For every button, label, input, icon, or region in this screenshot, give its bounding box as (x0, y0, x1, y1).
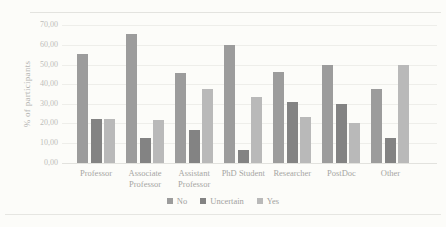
bottom-border-line (5, 214, 441, 215)
y-tick-label-20: 20,00 (22, 119, 58, 127)
legend-item-no: No (167, 196, 187, 206)
participants-bar-chart: % of participants 0,0010,0020,0030,0040,… (0, 0, 446, 227)
bar-uncertain-other (385, 138, 396, 163)
scanned-document-figure: % of participants 0,0010,0020,0030,0040,… (0, 0, 446, 227)
bar-yes-associate-professor (153, 120, 164, 163)
gridline-0 (62, 163, 437, 164)
bar-yes-professor (104, 119, 115, 163)
bar-yes-postdoc (349, 123, 360, 162)
bar-no-associate-professor (126, 34, 137, 163)
y-tick-label-0: 0,00 (22, 159, 58, 167)
bar-uncertain-phd-student (238, 150, 249, 163)
x-label-assistant-professor: Assistant Professor (166, 168, 222, 189)
y-tick-label-50: 50,00 (22, 61, 58, 69)
y-tick-label-10: 10,00 (22, 139, 58, 147)
bar-uncertain-researcher (287, 102, 298, 162)
legend-label-uncertain: Uncertain (210, 196, 244, 206)
y-tick-label-60: 60,00 (22, 41, 58, 49)
bar-uncertain-assistant-professor (189, 130, 200, 163)
bar-yes-researcher (300, 117, 311, 162)
gridline-40 (62, 84, 437, 85)
x-label-postdoc: PostDoc (313, 168, 369, 179)
x-label-associate-professor: Associate Professor (117, 168, 173, 189)
bar-uncertain-postdoc (336, 104, 347, 163)
bar-no-other (371, 89, 382, 163)
bar-no-researcher (273, 72, 284, 162)
bar-yes-phd-student (251, 97, 262, 162)
legend-label-yes: Yes (267, 196, 279, 206)
gridline-70 (62, 25, 437, 26)
bar-no-postdoc (322, 65, 333, 163)
legend-swatch-no (167, 198, 173, 204)
bar-no-professor (77, 54, 88, 163)
legend-label-no: No (177, 196, 187, 206)
x-label-professor: Professor (68, 168, 124, 179)
y-tick-label-70: 70,00 (22, 21, 58, 29)
legend: NoUncertainYes (0, 196, 446, 206)
legend-swatch-uncertain (200, 198, 206, 204)
legend-item-uncertain: Uncertain (200, 196, 244, 206)
bar-no-assistant-professor (175, 73, 186, 163)
bar-no-phd-student (224, 45, 235, 163)
y-tick-label-30: 30,00 (22, 100, 58, 108)
bar-yes-assistant-professor (202, 89, 213, 163)
x-label-researcher: Researcher (264, 168, 320, 179)
legend-swatch-yes (257, 198, 263, 204)
gridline-60 (62, 45, 437, 46)
y-tick-label-40: 40,00 (22, 80, 58, 88)
gridline-50 (62, 65, 437, 66)
bar-uncertain-professor (91, 119, 102, 163)
legend-item-yes: Yes (257, 196, 279, 206)
x-label-phd-student: PhD Student (215, 168, 271, 179)
x-label-other: Other (362, 168, 418, 179)
bar-yes-other (398, 65, 409, 163)
bar-uncertain-associate-professor (140, 138, 151, 163)
